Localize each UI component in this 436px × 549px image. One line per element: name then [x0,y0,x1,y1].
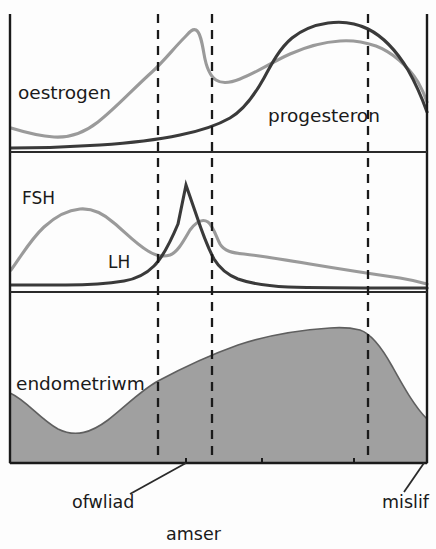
series-label-oestrogen: oestrogen [18,82,111,103]
x-axis-label: amser [166,524,221,544]
series-label-fsh: FSH [22,188,55,208]
series-label-lh: LH [108,252,130,272]
annotation-label-ofwliad: ofwliad [72,492,134,512]
leader-line-mislif [404,463,424,492]
annotation-label-mislif: mislif [382,492,429,512]
cycle-diagram-figure: oestrogen progesteron FSH LH endometriwm… [0,0,436,549]
leader-line-ofwliad [130,463,186,494]
series-label-endometriwm: endometriwm [16,373,145,394]
series-label-progesteron: progesteron [268,105,380,126]
